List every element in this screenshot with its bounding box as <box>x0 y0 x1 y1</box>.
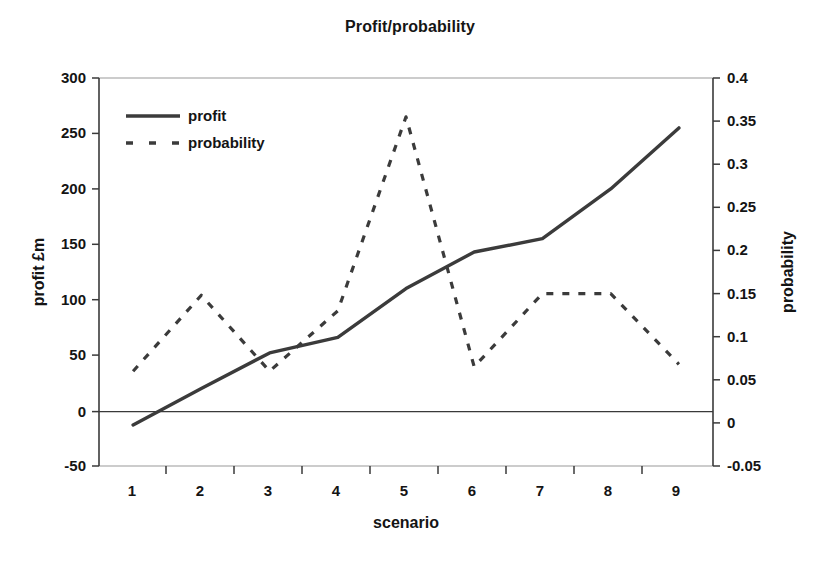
left-axis-tick-labels: 300 250 200 150 100 50 0 -50 <box>61 69 86 474</box>
x-axis-ticks <box>166 466 642 474</box>
x-axis-title: scenario <box>373 514 439 531</box>
left-axis-ticks <box>92 78 99 466</box>
xtick-label: 5 <box>400 482 408 499</box>
chart-legend: profit probability <box>126 107 265 151</box>
y2tick-label: 0.2 <box>727 241 748 258</box>
ytick-label: 150 <box>61 235 86 252</box>
y2tick-label: 0.3 <box>727 155 748 172</box>
y2tick-label: 0.4 <box>727 69 749 86</box>
x-axis-tick-labels: 1 2 3 4 5 6 7 8 9 <box>128 482 680 499</box>
xtick-label: 1 <box>128 482 136 499</box>
legend-label-profit: profit <box>188 107 226 124</box>
xtick-label: 3 <box>264 482 272 499</box>
chart-container: Profit/probability 300 250 200 150 <box>0 0 820 562</box>
y2tick-label: 0.15 <box>727 285 756 302</box>
ytick-label: 0 <box>78 403 86 420</box>
y2tick-label: 0 <box>727 414 735 431</box>
ytick-label: 300 <box>61 69 86 86</box>
ytick-label: 250 <box>61 124 86 141</box>
xtick-label: 9 <box>672 482 680 499</box>
xtick-label: 6 <box>468 482 476 499</box>
ytick-label: 100 <box>61 291 86 308</box>
y-axis-title: profit £m <box>30 238 47 306</box>
series-line-probability <box>133 117 679 371</box>
y2-axis-title: probability <box>779 231 796 313</box>
y2tick-label: -0.05 <box>727 457 761 474</box>
right-axis-tick-labels: 0.4 0.35 0.3 0.25 0.2 0.15 0.1 0.05 0 -0… <box>727 69 761 474</box>
right-axis-ticks <box>713 78 720 466</box>
xtick-label: 2 <box>196 482 204 499</box>
y2tick-label: 0.1 <box>727 328 748 345</box>
ytick-label: -50 <box>64 457 86 474</box>
series-line-profit <box>133 128 679 425</box>
xtick-label: 7 <box>536 482 544 499</box>
ytick-label: 50 <box>69 346 86 363</box>
legend-label-probability: probability <box>188 134 265 151</box>
y2tick-label: 0.25 <box>727 198 756 215</box>
chart-plot: 300 250 200 150 100 50 0 -50 0.4 0.35 <box>0 0 820 562</box>
y2tick-label: 0.35 <box>727 112 756 129</box>
ytick-label: 200 <box>61 180 86 197</box>
xtick-label: 8 <box>604 482 612 499</box>
y2tick-label: 0.05 <box>727 371 756 388</box>
xtick-label: 4 <box>332 482 341 499</box>
